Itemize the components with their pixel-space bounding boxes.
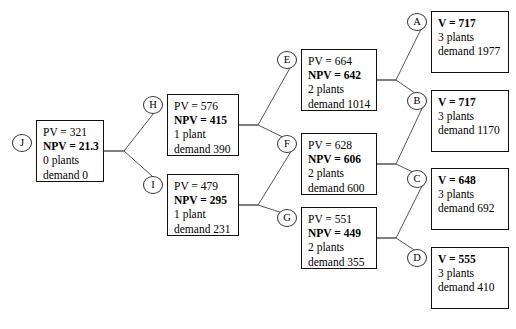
node-f-line-3: demand 600 <box>308 181 371 195</box>
decision-tree-diagram: JPV = 321NPV = 21.30 plantsdemand 0HPV =… <box>0 0 516 329</box>
node-d-line-2: demand 410 <box>438 280 503 294</box>
node-tag-b: B <box>407 92 427 110</box>
node-i-line-2: 1 plant <box>174 207 233 221</box>
node-g-line-3: demand 355 <box>308 255 371 269</box>
node-tag-e: E <box>277 51 297 69</box>
node-h-line-3: demand 390 <box>174 142 233 156</box>
node-d[interactable]: V = 5553 plantsdemand 410 <box>431 247 509 309</box>
node-e-line-2: 2 plants <box>308 82 371 96</box>
node-h[interactable]: PV = 576NPV = 4151 plantdemand 390 <box>167 94 239 156</box>
node-tag-f: F <box>277 135 297 153</box>
node-i-line-1: NPV = 295 <box>174 193 233 207</box>
node-f-line-1: NPV = 606 <box>308 152 371 166</box>
node-j-line-0: PV = 321 <box>43 125 98 139</box>
node-tag-j: J <box>12 134 32 152</box>
node-c-line-1: 3 plants <box>438 187 503 201</box>
node-i[interactable]: PV = 479NPV = 2951 plantdemand 231 <box>167 174 239 236</box>
node-b-line-0: V = 717 <box>438 95 503 109</box>
node-b-line-1: 3 plants <box>438 109 503 123</box>
node-j-line-2: 0 plants <box>43 153 98 167</box>
node-tag-h: H <box>143 96 163 114</box>
node-e-line-0: PV = 664 <box>308 54 371 68</box>
node-tag-i: I <box>143 176 163 194</box>
node-a-line-2: demand 1977 <box>438 44 503 58</box>
node-tag-g: G <box>277 209 297 227</box>
edge-I-to-F <box>258 145 295 205</box>
node-c-line-2: demand 692 <box>438 201 503 215</box>
node-h-line-1: NPV = 415 <box>174 113 233 127</box>
node-g-line-2: 2 plants <box>308 240 371 254</box>
node-e-line-3: demand 1014 <box>308 97 371 111</box>
node-a-line-1: 3 plants <box>438 30 503 44</box>
edge-H-to-E <box>258 59 295 125</box>
edge-F-to-B <box>396 102 425 164</box>
node-a[interactable]: V = 7173 plantsdemand 1977 <box>431 11 509 73</box>
node-j[interactable]: PV = 321NPV = 21.30 plantsdemand 0 <box>36 120 104 182</box>
node-d-line-0: V = 555 <box>438 252 503 266</box>
node-b[interactable]: V = 7173 plantsdemand 1170 <box>431 90 509 152</box>
node-i-line-0: PV = 479 <box>174 179 233 193</box>
node-tag-c: C <box>407 170 427 188</box>
node-j-line-3: demand 0 <box>43 168 98 182</box>
node-c[interactable]: V = 6483 plantsdemand 692 <box>431 168 509 230</box>
edge-G-to-C <box>396 180 425 238</box>
node-f[interactable]: PV = 628NPV = 6062 plantsdemand 600 <box>301 133 377 195</box>
node-e[interactable]: PV = 664NPV = 6422 plantsdemand 1014 <box>301 49 377 111</box>
node-f-line-0: PV = 628 <box>308 138 371 152</box>
node-g[interactable]: PV = 551NPV = 4492 plantsdemand 355 <box>301 207 377 269</box>
node-e-line-1: NPV = 642 <box>308 68 371 82</box>
node-b-line-2: demand 1170 <box>438 123 503 137</box>
node-g-line-1: NPV = 449 <box>308 226 371 240</box>
node-tag-d: D <box>407 249 427 267</box>
node-h-line-2: 1 plant <box>174 127 233 141</box>
node-g-line-0: PV = 551 <box>308 212 371 226</box>
node-a-line-0: V = 717 <box>438 16 503 30</box>
node-h-line-0: PV = 576 <box>174 99 233 113</box>
node-tag-a: A <box>407 13 427 31</box>
node-d-line-1: 3 plants <box>438 266 503 280</box>
node-f-line-2: 2 plants <box>308 166 371 180</box>
node-j-line-1: NPV = 21.3 <box>43 139 98 153</box>
node-i-line-3: demand 231 <box>174 222 233 236</box>
node-c-line-0: V = 648 <box>438 173 503 187</box>
